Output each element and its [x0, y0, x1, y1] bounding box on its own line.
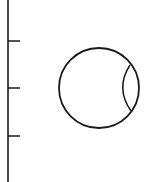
inner-arc-curve [123, 65, 131, 111]
diagram-canvas [0, 0, 164, 182]
circle-shape [59, 48, 139, 128]
axis-ticks [8, 41, 20, 136]
